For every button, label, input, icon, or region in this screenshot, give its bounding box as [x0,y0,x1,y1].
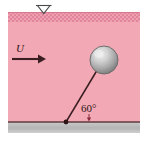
water-surface-hatch [8,12,140,22]
ground-slab [8,122,140,133]
sphere-icon [90,46,118,74]
diagram-canvas [0,0,148,141]
anchor-point-icon [64,120,69,125]
water-shading [8,12,140,122]
flow-sphere-diagram: U 60° [0,0,148,141]
